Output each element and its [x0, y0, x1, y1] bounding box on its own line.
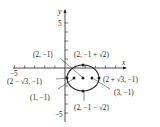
point-right-vertex	[98, 77, 101, 80]
label-focus-right: (3, −1)	[114, 89, 134, 97]
x-axis-label: x	[121, 58, 126, 67]
y-tick-label-5: 5	[58, 20, 62, 28]
point-focus-left	[73, 77, 76, 80]
label-center: (2, −1)	[33, 51, 53, 59]
point-center	[82, 77, 85, 80]
label-bottom: (2, −1 − √2)	[74, 104, 109, 112]
y-axis-label: y	[57, 7, 62, 16]
ellipse-diagram: y x 5 −5 −5 (2, −1) (2, −1 + √2) (2 + √3…	[0, 0, 160, 127]
point-left-vertex	[66, 77, 69, 80]
y-axis-arrow	[64, 9, 67, 13]
label-focus-left: (1, −1)	[30, 94, 50, 102]
label-right-vertex: (2 + √3, −1)	[103, 76, 138, 84]
label-left-vertex: (2 − √3, −1)	[7, 78, 42, 86]
point-top	[82, 64, 85, 67]
label-top: (2, −1 + √2)	[74, 51, 109, 59]
point-focus-right	[91, 77, 94, 80]
point-bottom	[82, 90, 85, 93]
y-tick-label-neg5: −5	[55, 111, 63, 119]
x-tick-label-neg5: −5	[10, 70, 18, 78]
